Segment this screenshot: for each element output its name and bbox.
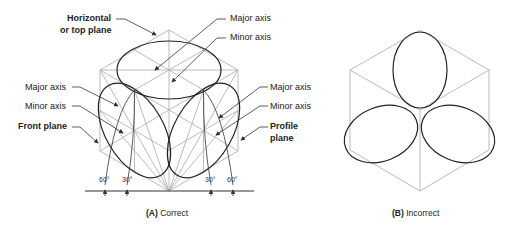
- label-right-minor-axis: Minor axis: [270, 101, 311, 112]
- label-top-plane: or top plane: [60, 25, 112, 36]
- angle-30-left: 30°: [122, 176, 133, 183]
- angle-60-left: 60°: [99, 176, 110, 183]
- ellipses-b: [336, 32, 504, 173]
- angle-30-right: 30°: [205, 176, 216, 183]
- label-top-minor-axis: Minor axis: [230, 32, 271, 43]
- label-right-major-axis: Major axis: [270, 82, 311, 93]
- label-profile-plane: Profile: [270, 121, 298, 132]
- label-front-plane: Front plane: [18, 121, 67, 132]
- cube-a: [100, 30, 238, 191]
- cube-b: [350, 30, 489, 191]
- label-top-major-axis: Major axis: [230, 13, 271, 24]
- caption-a: (A) Correct: [146, 208, 188, 218]
- angle-60-right: 60°: [227, 176, 238, 183]
- label-profile-plane-2: plane: [270, 133, 294, 144]
- top-ellipse-b: [393, 32, 447, 108]
- label-left-major-axis: Major axis: [25, 82, 66, 93]
- caption-b: (B) Incorrect: [392, 208, 439, 218]
- label-left-minor-axis: Minor axis: [25, 101, 66, 112]
- label-horizontal-plane: Horizontal: [67, 13, 111, 24]
